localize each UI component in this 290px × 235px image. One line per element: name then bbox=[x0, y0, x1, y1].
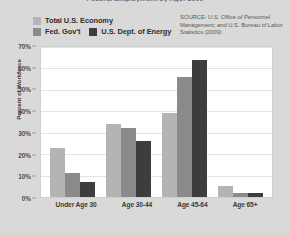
y-tick-mark bbox=[32, 198, 36, 199]
x-tick-label: Age 30-44 bbox=[122, 201, 152, 208]
x-axis-labels: Under Age 30Age 30-44Age 45-64Age 65+ bbox=[40, 201, 273, 208]
bar bbox=[248, 193, 263, 197]
bar bbox=[106, 124, 121, 197]
plot-area bbox=[40, 46, 273, 198]
bar bbox=[65, 173, 80, 197]
bar-group bbox=[162, 47, 207, 197]
bar bbox=[177, 77, 192, 197]
bar-group bbox=[106, 47, 151, 197]
y-tick-label: 0% bbox=[22, 195, 31, 202]
bar bbox=[80, 182, 95, 197]
legend-entry-us-dept-of-energy: U.S. Dept. of Energy bbox=[89, 27, 171, 36]
legend-row-2: Fed. Gov't U.S. Dept. of Energy bbox=[33, 26, 175, 37]
chart-legend: Total U.S. Economy Fed. Gov't U.S. Dept.… bbox=[33, 15, 175, 37]
y-tick-mark bbox=[32, 67, 36, 68]
y-tick-label: 40% bbox=[18, 108, 31, 115]
y-tick-label: 50% bbox=[18, 86, 31, 93]
legend-swatch-fed-govt bbox=[33, 28, 41, 36]
bar bbox=[233, 193, 248, 197]
source-note: SOURCE: U.S. Office of Personnel Managem… bbox=[180, 14, 286, 37]
bar-group bbox=[218, 47, 263, 197]
legend-swatch-total-us-economy bbox=[33, 17, 41, 25]
plot-frame: 70%60%50%40%30%20%10%0% bbox=[40, 46, 273, 198]
y-tick-label: 20% bbox=[18, 151, 31, 158]
y-tick-label: 30% bbox=[18, 129, 31, 136]
legend-swatch-us-dept-of-energy bbox=[89, 28, 97, 36]
x-tick-label: Under Age 30 bbox=[56, 201, 97, 208]
bar bbox=[218, 186, 233, 197]
y-tick-label: 10% bbox=[18, 173, 31, 180]
x-tick-label: Age 65+ bbox=[233, 201, 258, 208]
bar bbox=[162, 113, 177, 197]
y-tick-mark bbox=[32, 111, 36, 112]
y-axis-ticks: 70%60%50%40%30%20%10%0% bbox=[7, 46, 36, 198]
gridline bbox=[41, 197, 272, 198]
bar bbox=[192, 60, 207, 197]
bars-layer bbox=[41, 47, 272, 197]
bar bbox=[121, 128, 136, 197]
legend-row-1: Total U.S. Economy bbox=[33, 15, 175, 26]
chart-figure: Federal Employment by Age: 2009 Total U.… bbox=[0, 0, 290, 235]
chart-title: Federal Employment by Age: 2009 bbox=[0, 0, 290, 2]
x-tick-label: Age 45-64 bbox=[177, 201, 207, 208]
y-tick-mark bbox=[32, 176, 36, 177]
legend-entry-fed-govt: Fed. Gov't bbox=[33, 27, 80, 36]
y-tick-label: 60% bbox=[18, 64, 31, 71]
y-tick-mark bbox=[32, 89, 36, 90]
legend-label-fed-govt: Fed. Gov't bbox=[45, 27, 80, 36]
bar bbox=[50, 148, 65, 197]
y-tick-mark bbox=[32, 132, 36, 133]
bar bbox=[136, 141, 151, 197]
legend-label-total-us-economy: Total U.S. Economy bbox=[45, 16, 113, 25]
legend-entry-total-us-economy: Total U.S. Economy bbox=[33, 16, 113, 25]
y-tick-label: 70% bbox=[18, 43, 31, 50]
legend-label-us-dept-of-energy: U.S. Dept. of Energy bbox=[101, 27, 171, 36]
y-tick-mark bbox=[32, 46, 36, 47]
y-tick-mark bbox=[32, 154, 36, 155]
bar-group bbox=[50, 47, 95, 197]
